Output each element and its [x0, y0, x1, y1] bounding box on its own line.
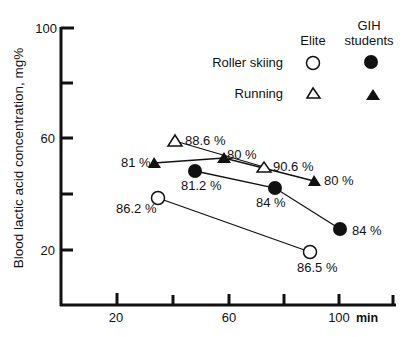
- x-unit-label: min: [356, 311, 378, 325]
- x-label-20: 20: [109, 310, 123, 325]
- y-label-20: 20: [41, 243, 55, 258]
- legend-open-circle-icon: [307, 57, 320, 70]
- legend-header-gih-2: students: [344, 33, 394, 48]
- legend-row-roller-skiing: Roller skiing: [212, 55, 283, 70]
- marker-filled-circle-icon: [188, 164, 202, 178]
- chart: 100 60 20 20 60 100 min Elite GIH studen…: [0, 0, 418, 337]
- marker-open-triangle-icon: [168, 135, 182, 146]
- line-elite-roller-skiing: [158, 198, 310, 252]
- label-elite-run-2: 90.6 %: [273, 159, 314, 174]
- label-gih-rs-2: 84 %: [256, 195, 286, 210]
- label-elite-run-1: 88.6 %: [185, 133, 226, 148]
- data-labels: 86.2 % 86.5 % 88.6 % 90.6 % 81.2 % 84 % …: [116, 133, 382, 275]
- legend-header-elite: Elite: [300, 33, 325, 48]
- label-gih-rs-3: 84 %: [352, 223, 382, 238]
- label-gih-run-2: 80 %: [227, 147, 257, 162]
- y-label-100: 100: [35, 21, 57, 36]
- legend-filled-circle-icon: [364, 55, 378, 69]
- label-elite-rs-1: 86.2 %: [116, 201, 157, 216]
- legend-filled-triangle-icon: [366, 89, 380, 100]
- legend: Elite GIH students Roller skiing Running: [212, 18, 394, 101]
- y-label-60: 60: [41, 131, 55, 146]
- legend-header-gih-1: GIH: [357, 18, 380, 33]
- legend-row-running: Running: [235, 86, 283, 101]
- x-label-100: 100: [328, 310, 350, 325]
- label-elite-rs-2: 86.5 %: [297, 260, 338, 275]
- x-label-60: 60: [222, 310, 236, 325]
- legend-open-triangle-icon: [307, 88, 320, 98]
- marker-filled-circle-icon: [268, 181, 282, 195]
- label-gih-run-3: 80 %: [324, 173, 354, 188]
- marker-open-circle-icon: [304, 246, 317, 259]
- label-gih-run-1: 81 %: [121, 155, 151, 170]
- marker-filled-circle-icon: [333, 222, 347, 236]
- label-gih-rs-1: 81.2 %: [181, 178, 222, 193]
